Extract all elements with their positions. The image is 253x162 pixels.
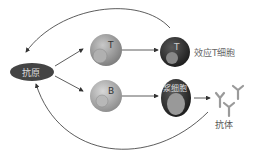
effector-t-inner-label: T — [174, 42, 180, 52]
t-cell-label: T — [108, 40, 114, 50]
plasma-cell-label: 浆细胞 — [163, 82, 187, 93]
diagram-canvas — [0, 0, 253, 162]
arrow-antigen-to-b — [55, 76, 83, 91]
antibody-caption: 抗体 — [215, 118, 233, 131]
arrow-antigen-to-t — [55, 49, 83, 66]
effector-t-caption: 效应T细胞 — [194, 46, 236, 59]
b-cell-node — [90, 80, 122, 112]
b-cell-label: B — [108, 86, 114, 96]
t-cell-node — [90, 34, 122, 66]
antibody-icons — [216, 86, 243, 116]
antigen-label: 抗原 — [22, 66, 40, 79]
